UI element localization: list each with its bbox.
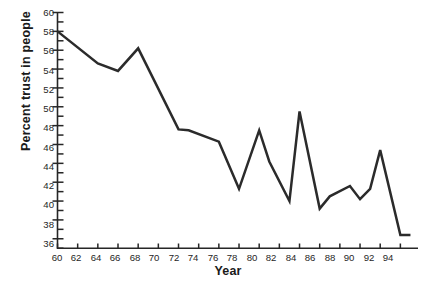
line-chart: Percent trust in people 60 58 56 54 52 5… [0,0,426,289]
y-axis [53,12,64,249]
data-series-line [58,31,411,235]
plot-area [0,0,426,289]
x-axis [57,244,418,249]
